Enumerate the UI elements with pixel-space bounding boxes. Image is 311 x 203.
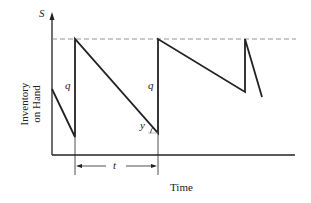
angle-label: y [140,119,145,131]
order-quantity-label-2: q [148,79,154,91]
x-axis-label: Time [170,181,193,193]
order-quantity-label-1: q [65,79,71,91]
inventory-sawtooth-line [52,39,262,137]
y-axis-label-line2: on Hand [30,72,42,136]
inventory-diagram [0,0,311,203]
angle-arc [151,128,154,134]
arrow-right-icon [151,164,157,168]
period-label: t [113,159,116,171]
y-axis-label-line1: Inventory [18,72,30,136]
y-axis-arrow-icon [50,12,55,20]
arrow-left-icon [76,164,82,168]
y-axis-label: Inventory on Hand [18,72,42,136]
y-axis-symbol: S [39,7,45,19]
